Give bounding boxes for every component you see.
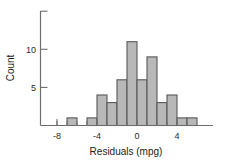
x-axis-title: Residuals (mpg) — [90, 146, 163, 157]
histogram-bar — [87, 118, 97, 126]
y-axis-tick-label: 10 — [26, 45, 36, 55]
histogram-chart: 510 -8-404 Residuals (mpg) Count — [0, 0, 225, 160]
y-axis-tick-label: 5 — [31, 83, 36, 93]
histogram-bar — [127, 42, 137, 126]
histogram-bar — [177, 118, 187, 126]
histogram-bar — [167, 95, 177, 126]
histogram-bar — [97, 95, 107, 126]
histogram-bar — [137, 80, 147, 126]
histogram-bar — [157, 103, 167, 126]
x-axis-tick-label: 4 — [174, 131, 179, 141]
histogram-bar — [187, 118, 197, 126]
histogram-bar — [107, 103, 117, 126]
histogram-bar — [117, 80, 127, 126]
x-axis-tick-label: 0 — [134, 131, 139, 141]
chart-canvas: 510 -8-404 Residuals (mpg) Count — [0, 0, 225, 160]
x-axis-tick-label: -4 — [93, 131, 101, 141]
x-axis-tick-label: -8 — [53, 131, 61, 141]
histogram-bar — [147, 57, 157, 126]
histogram-bar — [67, 118, 77, 126]
chart-background — [0, 0, 225, 160]
y-axis-title: Count — [5, 54, 16, 81]
